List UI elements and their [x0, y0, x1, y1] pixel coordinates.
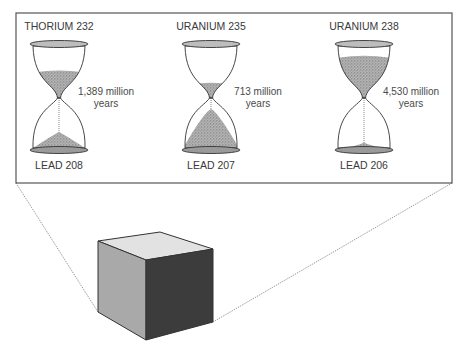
daughter-isotope-label: LEAD 206	[340, 159, 388, 171]
top-cap	[30, 41, 88, 48]
bottom-cap	[182, 147, 240, 154]
parent-isotope-label: URANIUM 235	[176, 20, 246, 32]
top-cap	[335, 41, 393, 48]
parent-isotope-label: THORIUM 232	[24, 20, 94, 32]
half-life-value: 1,389 million	[78, 86, 134, 97]
diagram-canvas: THORIUM 2321,389 millionyearsLEAD 208URA…	[0, 0, 463, 354]
rock-sample-cube	[98, 232, 213, 340]
perspective-line-left	[16, 183, 98, 312]
half-life-unit: years	[399, 98, 423, 109]
perspective-line-right	[213, 183, 452, 322]
half-life-value: 713 million	[234, 86, 282, 97]
daughter-isotope-label: LEAD 208	[35, 159, 83, 171]
bottom-cap	[30, 147, 88, 154]
half-life-unit: years	[246, 98, 270, 109]
top-cap	[182, 41, 240, 48]
cube-right-face	[146, 249, 213, 340]
bottom-cap	[335, 147, 393, 154]
magnified-view-frame	[16, 13, 452, 183]
daughter-isotope-label: LEAD 207	[187, 159, 235, 171]
half-life-value: 4,530 million	[383, 86, 439, 97]
parent-isotope-label: URANIUM 238	[329, 20, 399, 32]
half-life-unit: years	[94, 98, 118, 109]
